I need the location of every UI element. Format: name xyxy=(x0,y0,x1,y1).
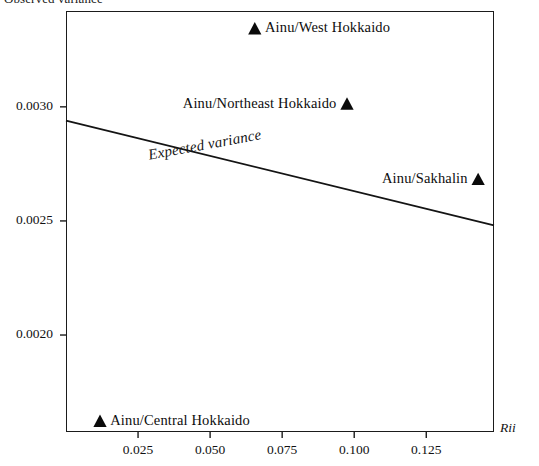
x-tick-label: 0.025 xyxy=(98,442,178,458)
axis-ticks xyxy=(60,107,426,438)
point-label: Ainu/Northeast Hokkaido xyxy=(183,95,337,112)
x-tick-label: 0.050 xyxy=(170,442,250,458)
y-tick-label: 0.0020 xyxy=(0,326,53,342)
point-label: Ainu/Central Hokkaido xyxy=(110,412,250,429)
y-tick-label: 0.0030 xyxy=(0,98,53,114)
x-tick-label: 0.125 xyxy=(386,442,466,458)
chart-figure: Observed variance 0.00300.00250.00200.02… xyxy=(0,0,539,466)
plot-overlay xyxy=(0,0,539,466)
marker-triangle xyxy=(340,97,353,109)
x-axis-title: Rii xyxy=(500,420,516,436)
point-label: Ainu/Sakhalin xyxy=(382,170,468,187)
marker-triangle xyxy=(93,415,106,427)
x-tick-label: 0.100 xyxy=(314,442,394,458)
marker-triangle xyxy=(472,173,485,185)
x-tick-label: 0.075 xyxy=(242,442,322,458)
data-point-markers xyxy=(93,22,484,427)
y-tick-label: 0.0025 xyxy=(0,212,53,228)
point-label: Ainu/West Hokkaido xyxy=(265,19,390,36)
marker-triangle xyxy=(248,22,261,34)
